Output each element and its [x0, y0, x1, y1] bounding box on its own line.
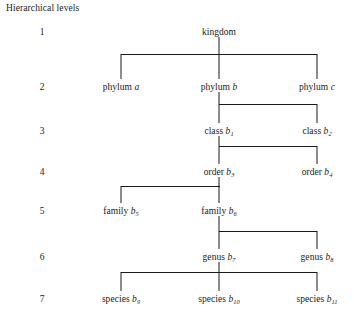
node-phylum-c: phylum c	[299, 82, 335, 92]
edge-drop-order-b4	[317, 146, 318, 164]
edge-drop-phylum-c	[317, 54, 318, 79]
node-order-b3: order b3	[204, 167, 235, 177]
level-number-2: 2	[30, 82, 54, 92]
edge-drop-phylum-a	[121, 54, 122, 79]
edge-drop-class-b1	[219, 104, 220, 123]
level-number-4: 4	[30, 167, 54, 177]
edge-drop-family-b5	[121, 186, 122, 203]
edge-kingdom-stem	[219, 37, 220, 54]
node-class-b1: class b1	[204, 126, 233, 136]
edge-family-b6-bus	[219, 231, 317, 232]
node-species-b11: species b11	[297, 294, 338, 304]
edge-order-b3-bus	[121, 186, 220, 187]
level-number-7: 7	[30, 294, 54, 304]
node-genus-b8: genus b8	[301, 252, 334, 262]
node-order-b4: order b4	[302, 167, 333, 177]
edge-drop-order-b3	[219, 146, 220, 164]
node-kingdom: kingdom	[202, 27, 236, 37]
level-number-5: 5	[30, 206, 54, 216]
node-species-b10: species b10	[198, 294, 239, 304]
node-family-b6: family b6	[201, 206, 237, 216]
diagram-caption: Hierarchical levels	[6, 3, 79, 13]
edge-drop-species-b9	[121, 272, 122, 291]
node-species-b9: species b9	[102, 294, 140, 304]
edge-class-b1-stem	[219, 136, 220, 146]
edge-drop-family-b6	[219, 186, 220, 203]
edge-phylum-b-stem	[219, 92, 220, 104]
edge-phylum-b-bus	[219, 104, 317, 105]
node-class-b2: class b2	[302, 126, 331, 136]
edge-drop-species-b11	[317, 272, 318, 291]
level-number-3: 3	[30, 126, 54, 136]
edge-order-b3-stem	[219, 177, 220, 186]
edge-drop-genus-b7	[219, 231, 220, 249]
edge-drop-phylum-b	[219, 54, 220, 79]
edge-class-b1-bus	[219, 146, 317, 147]
edge-drop-genus-b8	[317, 231, 318, 249]
node-genus-b7: genus b7	[203, 252, 236, 262]
edge-drop-class-b2	[317, 104, 318, 123]
hierarchical-levels-diagram: Hierarchical levels 1 2 3 4 5 6 7 kingdo…	[0, 0, 354, 322]
level-number-6: 6	[30, 252, 54, 262]
node-phylum-b: phylum b	[201, 82, 238, 92]
node-phylum-a: phylum a	[103, 82, 140, 92]
edge-drop-species-b10	[219, 272, 220, 291]
level-number-1: 1	[30, 27, 54, 37]
node-family-b5: family b5	[103, 206, 139, 216]
edge-family-b6-stem	[219, 216, 220, 231]
edge-genus-b7-stem	[219, 262, 220, 272]
